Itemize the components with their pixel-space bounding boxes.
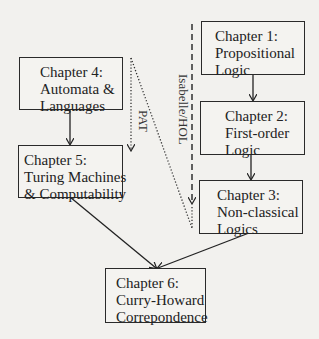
node-title: Chapter 3: xyxy=(217,187,294,204)
node-subtitle: Curry-Howard xyxy=(116,292,197,309)
edge-label-pat: PAT xyxy=(135,110,151,132)
node-chapter-4: Chapter 4: Automata & Languages xyxy=(19,57,123,110)
node-chapter-2: Chapter 2: First-order Logic xyxy=(200,101,305,155)
node-chapter-3: Chapter 3: Non-classical Logics xyxy=(199,180,303,234)
node-title: Chapter 4: xyxy=(40,64,114,81)
node-chapter-5: Chapter 5: Turing Machines & Computabili… xyxy=(18,145,123,198)
edge-ch5-ch6 xyxy=(70,197,156,268)
node-subtitle: Languages xyxy=(40,98,114,115)
node-subtitle: Correpondence xyxy=(116,309,197,326)
node-subtitle: First-order xyxy=(225,125,296,142)
node-subtitle: Non-classical xyxy=(217,204,294,221)
node-title: Chapter 6: xyxy=(116,275,197,292)
edge-label-isabelle: Isabelle/HOL xyxy=(175,74,191,145)
node-subtitle: Propositional xyxy=(215,45,296,62)
node-subtitle: & Computability xyxy=(24,186,114,203)
node-title: Chapter 2: xyxy=(225,108,296,125)
node-chapter-6: Chapter 6: Curry-Howard Correpondence xyxy=(105,268,206,323)
node-chapter-1: Chapter 1: Propositional Logic xyxy=(201,21,305,75)
node-subtitle: Logic xyxy=(225,142,296,159)
node-title: Chapter 5: xyxy=(24,152,114,169)
edge-ch3-ch6 xyxy=(158,233,249,268)
node-subtitle: Turing Machines xyxy=(24,169,114,186)
node-subtitle: Logic xyxy=(215,62,296,79)
node-subtitle: Automata & xyxy=(40,81,114,98)
node-subtitle: Logics xyxy=(217,221,294,238)
node-title: Chapter 1: xyxy=(215,28,296,45)
